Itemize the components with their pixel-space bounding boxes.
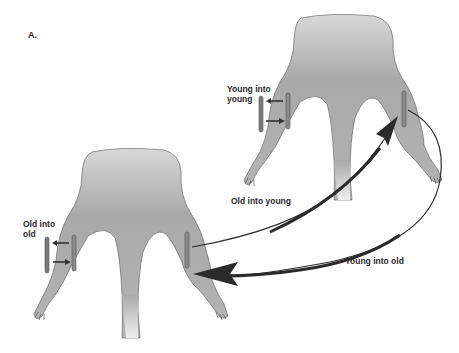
old-mouse — [34, 148, 228, 338]
old-mouse-left-muscle — [72, 235, 76, 271]
label-young-into-old: Young into old — [345, 256, 404, 266]
diagram-stage: A. Young into young Old into old Old int… — [0, 0, 459, 353]
label-old-into-young: Old into young — [231, 196, 291, 206]
label-old-into-old: Old into old — [23, 219, 55, 239]
transplant-diagram — [0, 0, 459, 353]
young-mouse — [244, 14, 442, 200]
young-mouse-left-muscle — [286, 93, 290, 129]
young-mouse-right-muscle — [402, 91, 406, 127]
panel-label: A. — [28, 30, 37, 40]
label-young-into-young: Young into young — [227, 84, 271, 104]
arrow-old-into-young — [192, 128, 392, 247]
old-mouse-right-muscle — [185, 232, 189, 268]
old-graft-extracted — [45, 237, 49, 273]
